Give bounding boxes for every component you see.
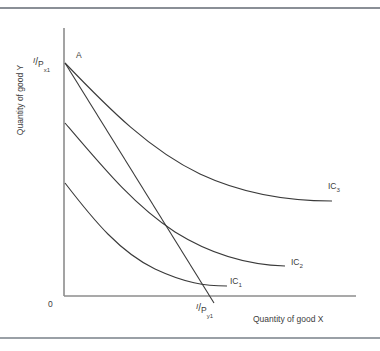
curve-label-ic1: IC1 — [230, 277, 242, 288]
curve-label-ic3: IC3 — [328, 182, 340, 193]
x-intercept-numerator: I — [196, 302, 198, 311]
curve-label-ic2: IC2 — [291, 258, 303, 269]
x-axis-title: Quantity of good X — [253, 314, 323, 324]
plot-canvas — [0, 0, 380, 351]
budget-line — [65, 63, 214, 303]
curve-label-ic3-base: IC — [328, 181, 337, 191]
y-intercept-denominator: P — [38, 59, 44, 69]
x-intercept-label: I/Py1 — [196, 303, 213, 315]
figure-root: Quantity of good Y Quantity of good X 0 … — [0, 0, 380, 351]
x-intercept-denominator: P — [201, 305, 207, 315]
y-intercept-numerator: I — [33, 56, 35, 65]
bottom-divider-rule — [0, 337, 380, 339]
curve-label-ic1-base: IC — [230, 276, 239, 286]
curve-label-ic1-index: 1 — [239, 281, 242, 288]
curve-label-ic2-index: 2 — [300, 262, 303, 269]
y-axis-title: Quantity of good Y — [15, 40, 25, 160]
curve-label-ic2-base: IC — [291, 257, 300, 267]
indifference-curve-ic1 — [65, 183, 227, 286]
origin-label: 0 — [48, 300, 53, 309]
curve-label-ic3-index: 3 — [337, 186, 340, 193]
indifference-curve-ic2 — [65, 123, 285, 266]
y-intercept-sub-index: 1 — [47, 67, 50, 73]
indifference-curve-ic3 — [65, 63, 332, 201]
x-intercept-sub-index: 1 — [210, 313, 213, 319]
point-a-label: A — [76, 51, 82, 60]
y-intercept-label: I/Px1 — [33, 57, 50, 69]
